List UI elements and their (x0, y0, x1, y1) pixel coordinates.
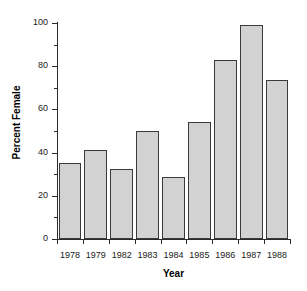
bar (266, 80, 289, 239)
x-tick (109, 239, 110, 244)
bar (110, 169, 133, 239)
x-tick-label: 1983 (135, 250, 161, 260)
y-tick-label: 100 (8, 18, 48, 27)
bar-chart: 020406080100 197819791982198319841985198… (0, 0, 307, 291)
bar (214, 60, 237, 239)
x-tick (135, 239, 136, 244)
bar (59, 163, 82, 239)
x-tick (161, 239, 162, 244)
y-tick-label: 0 (8, 234, 48, 243)
x-tick-label: 1986 (212, 250, 238, 260)
x-tick (238, 239, 239, 244)
x-tick-label: 1984 (161, 250, 187, 260)
x-axis-title: Year (57, 268, 290, 279)
bar (136, 131, 159, 239)
bar (84, 150, 107, 239)
x-tick-label: 1979 (83, 250, 109, 260)
x-tick (83, 239, 84, 244)
x-tick (212, 239, 213, 244)
bar (162, 177, 185, 239)
y-axis-title: Percent Female (11, 58, 22, 188)
x-tick-label: 1982 (109, 250, 135, 260)
x-tick-label: 1987 (238, 250, 264, 260)
bar (188, 122, 211, 239)
x-tick-label: 1985 (186, 250, 212, 260)
x-axis-line (57, 239, 290, 240)
x-tick-label: 1988 (264, 250, 290, 260)
plot-area (57, 23, 289, 239)
x-tick (264, 239, 265, 244)
x-tick-label: 1978 (57, 250, 83, 260)
x-tick (290, 239, 291, 244)
x-tick (186, 239, 187, 244)
x-tick (57, 239, 58, 244)
y-tick-label: 20 (8, 191, 48, 200)
bar (240, 25, 263, 239)
